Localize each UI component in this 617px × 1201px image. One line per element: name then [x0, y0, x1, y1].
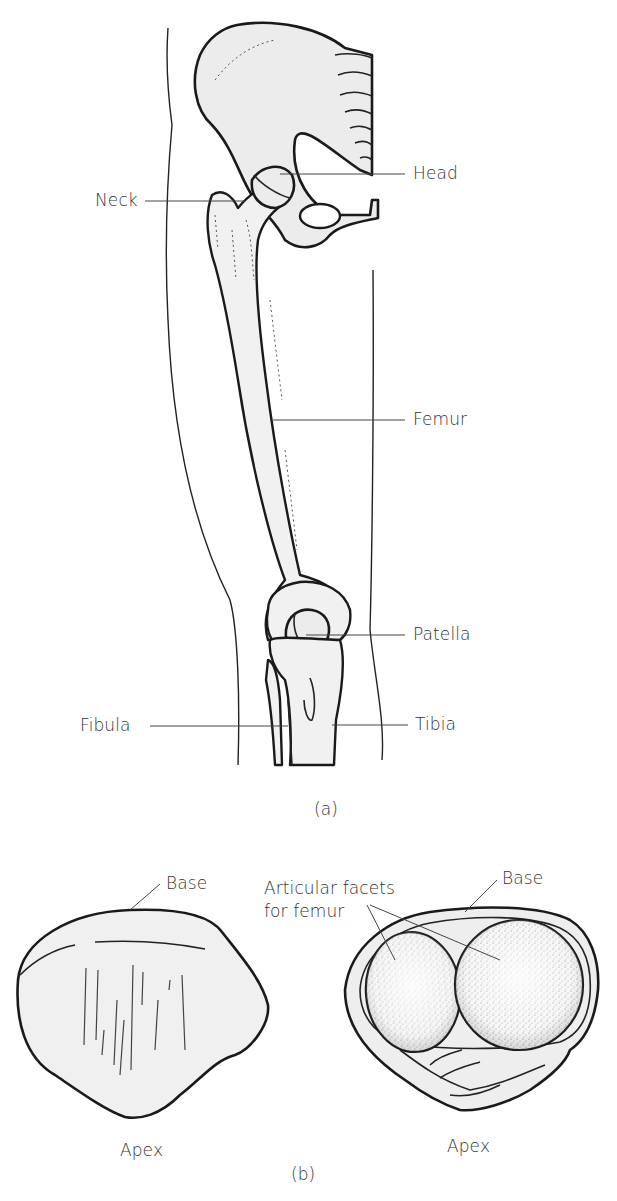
label-tibia: Tibia	[415, 716, 456, 733]
label-head: Head	[413, 165, 458, 182]
fibula-bone	[266, 660, 282, 765]
anatomy-illustration	[0, 0, 617, 1201]
label-base-posterior: Base	[502, 870, 543, 887]
label-femur: Femur	[413, 411, 467, 428]
label-patella: Patella	[413, 626, 471, 643]
patella-anterior	[17, 910, 268, 1118]
label-apex-posterior: Apex	[447, 1138, 490, 1155]
label-base-anterior: Base	[166, 875, 207, 892]
diagram-canvas: Head Neck Femur Patella Fibula Tibia (a)…	[0, 0, 617, 1201]
label-neck: Neck	[95, 192, 138, 209]
label-apex-anterior: Apex	[120, 1142, 163, 1159]
label-fibula: Fibula	[80, 717, 131, 734]
panel-label-a: (a)	[314, 801, 338, 818]
panel-label-b: (b)	[291, 1166, 315, 1183]
knee-joint	[266, 582, 350, 765]
patella-posterior	[345, 907, 598, 1110]
label-facets-line1: Articular facets	[264, 880, 395, 897]
label-facets-line2: for femur	[264, 903, 344, 920]
